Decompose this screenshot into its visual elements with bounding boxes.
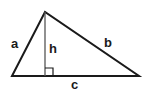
label-side-a: a — [11, 36, 19, 51]
triangle — [12, 12, 139, 76]
label-height-h: h — [49, 41, 57, 56]
label-side-b: b — [104, 35, 112, 50]
triangle-diagram: a h b c — [0, 0, 151, 90]
right-angle-marker — [45, 68, 53, 76]
label-side-c: c — [71, 77, 78, 90]
